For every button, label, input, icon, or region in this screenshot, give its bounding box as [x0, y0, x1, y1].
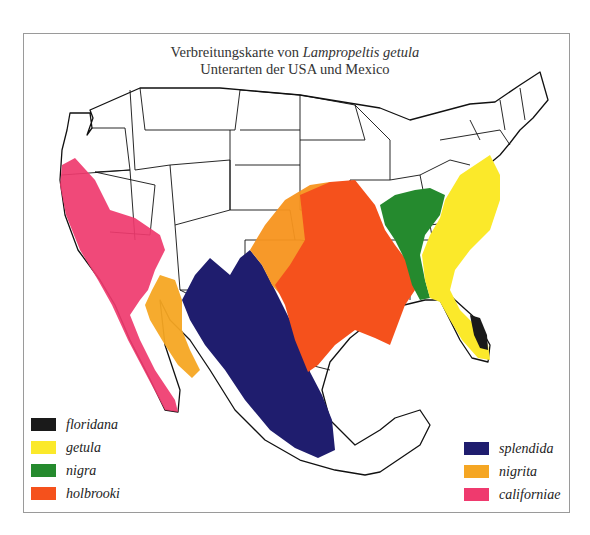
- legend-right: splendida nigrita californiae: [464, 437, 560, 506]
- legend-swatch: [31, 418, 56, 431]
- legend-swatch: [464, 442, 489, 455]
- legend-item-nigra: nigra: [31, 459, 120, 482]
- legend-swatch: [464, 488, 489, 501]
- legend-item-nigrita: nigrita: [464, 460, 560, 483]
- legend-left: floridana getula nigra holbrooki: [31, 413, 120, 505]
- legend-item-californiae: californiae: [464, 483, 560, 506]
- legend-swatch: [31, 487, 56, 500]
- legend-swatch: [31, 441, 56, 454]
- legend-item-floridana: floridana: [31, 413, 120, 436]
- legend-item-getula: getula: [31, 436, 120, 459]
- legend-swatch: [31, 464, 56, 477]
- legend-item-splendida: splendida: [464, 437, 560, 460]
- legend-item-holbrooki: holbrooki: [31, 482, 120, 505]
- legend-swatch: [464, 465, 489, 478]
